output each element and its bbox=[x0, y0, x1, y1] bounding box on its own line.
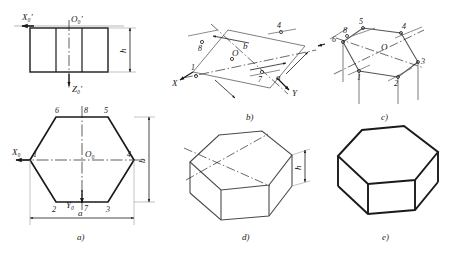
iso-hex-vertex-5: 5 bbox=[359, 17, 363, 26]
iso-hex-vertex-2: 2 bbox=[394, 79, 398, 88]
prism-bottom-edges bbox=[190, 186, 292, 220]
panel-b-isometric-axes: X Y O 8 4 1 7 b a b) bbox=[171, 21, 316, 122]
top-view-hexagon: X₀ Y₀ O₀ 1 2 3 4 5 6 7 8 b a bbox=[11, 106, 155, 225]
iso-vertex-1-point bbox=[194, 74, 197, 77]
iso-vertex-7: 7 bbox=[258, 75, 263, 84]
panel-a-orthographic: X₀′ Z₀′ O₀′ h X₀ Y₀ O₀ 1 2 3 4 5 6 bbox=[11, 12, 155, 242]
width-dimension-label: a bbox=[78, 208, 83, 218]
hexagon-vertex-2: 2 bbox=[52, 205, 56, 214]
caption-a: a) bbox=[77, 232, 85, 242]
front-origin-label: O₀′ bbox=[71, 14, 84, 24]
drawing-sheet: X₀′ Z₀′ O₀′ h X₀ Y₀ O₀ 1 2 3 4 5 6 bbox=[0, 0, 455, 254]
panel-c-hexagon-vertices: O 5 8 4 6 3 1 2 c) bbox=[318, 17, 425, 122]
hexagon-vertex-8: 8 bbox=[84, 106, 88, 115]
panel-e-final-solid: e) bbox=[338, 126, 438, 242]
front-axis-x-label: X₀′ bbox=[21, 12, 34, 22]
front-axis-z-label: Z₀′ bbox=[72, 84, 83, 94]
prism-height-label: h bbox=[293, 165, 303, 170]
solid-top-face bbox=[338, 126, 438, 184]
caption-e: e) bbox=[382, 232, 389, 242]
iso-hex-origin-label: O bbox=[381, 42, 388, 52]
height-dimension-label: h bbox=[118, 48, 128, 53]
panel-d-extruded-prism: h d) bbox=[184, 131, 310, 242]
top-axis-y-label: Y₀ bbox=[66, 200, 74, 210]
top-axis-x-label: X₀ bbox=[11, 147, 21, 157]
caption-d: d) bbox=[242, 232, 250, 242]
iso-parallelogram bbox=[193, 30, 305, 88]
iso-hex-vertex-4: 4 bbox=[402, 22, 406, 31]
depth-dimension-label: b bbox=[137, 158, 147, 163]
technical-drawing-canvas: X₀′ Z₀′ O₀′ h X₀ Y₀ O₀ 1 2 3 4 5 6 bbox=[0, 0, 455, 254]
hexagon-vertex-7: 7 bbox=[84, 204, 89, 213]
iso-vertex-1: 1 bbox=[191, 63, 195, 72]
iso-hex-vertex-3: 3 bbox=[420, 57, 425, 66]
hexagon-vertex-1: 1 bbox=[33, 150, 37, 159]
iso-hex-vertex-6: 6 bbox=[332, 35, 336, 44]
dim-a-arrow-left bbox=[215, 80, 235, 98]
tick-2 bbox=[388, 68, 412, 81]
prism-centerline-2 bbox=[186, 134, 268, 180]
hexagon-vertex-4: 4 bbox=[127, 150, 131, 159]
hexagon-vertex-3: 3 bbox=[105, 205, 110, 214]
iso-axis-x-label: X bbox=[171, 78, 178, 88]
hexagon-vertex-6: 6 bbox=[55, 106, 59, 115]
dim-b-label: b bbox=[243, 41, 248, 51]
iso-vertex-8: 8 bbox=[198, 44, 202, 53]
iso-tick-8 bbox=[188, 30, 218, 36]
dim-a-label: a bbox=[276, 72, 281, 82]
tick-arrow-left bbox=[318, 44, 325, 46]
solid-bottom-edges bbox=[338, 182, 438, 214]
caption-c: c) bbox=[381, 112, 388, 122]
caption-b: b) bbox=[246, 112, 254, 122]
prism-top-face bbox=[190, 131, 292, 190]
dim-b-arrow-lower bbox=[250, 63, 286, 70]
prism-height-ext-bottom bbox=[292, 181, 310, 186]
prism-height-ext-top bbox=[292, 149, 310, 155]
iso-hex-vertex-8: 8 bbox=[343, 26, 347, 35]
hexagon-vertex-5: 5 bbox=[104, 106, 108, 115]
front-elevation: X₀′ Z₀′ O₀′ h bbox=[14, 12, 136, 94]
iso-axis-y-label: Y bbox=[292, 88, 298, 98]
iso-origin-label: O bbox=[232, 48, 239, 58]
prism-centerline-1 bbox=[184, 148, 270, 186]
top-origin-label: O₀ bbox=[85, 149, 95, 159]
iso-vertex-4: 4 bbox=[277, 21, 281, 30]
iso-hex-vertex-1: 1 bbox=[357, 73, 361, 82]
